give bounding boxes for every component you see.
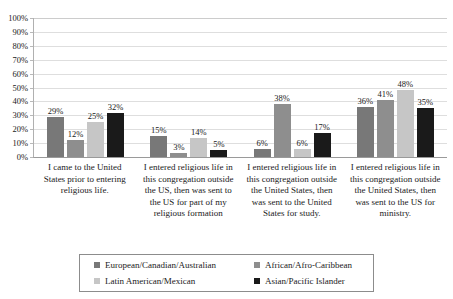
bar-slot: 3% (170, 18, 187, 157)
bar-slot: 15% (150, 18, 167, 157)
bar[interactable] (397, 90, 414, 157)
bar-slot: 48% (397, 18, 414, 157)
bar[interactable] (294, 149, 311, 157)
legend-label: African/Afro-Caribbean (265, 260, 352, 270)
legend-item[interactable]: European/Canadian/Australian (94, 260, 254, 270)
y-tick-label: 90% (12, 28, 28, 37)
y-tick-label: 20% (12, 125, 28, 134)
bar-slot: 32% (107, 18, 124, 157)
bar[interactable] (210, 150, 227, 157)
bar-value-label: 17% (314, 123, 330, 132)
bar-value-label: 48% (398, 80, 414, 89)
bar-slot: 29% (47, 18, 64, 157)
bar-group: 15%3%14%5% (137, 18, 240, 157)
plot-wrapper: 100%90%80%70%60%50%40%30%20%10%0% 29%12%… (0, 18, 453, 160)
category-axis-labels: I came to the United States prior to ent… (33, 162, 447, 248)
legend-swatch (94, 278, 100, 284)
bar-slot: 6% (294, 18, 311, 157)
bar-slot: 36% (357, 18, 374, 157)
bar-value-label: 41% (378, 90, 394, 99)
bar[interactable] (314, 133, 331, 157)
bar-chart: 100%90%80%70%60%50%40%30%20%10%0% 29%12%… (0, 0, 453, 299)
y-tick-label: 40% (12, 97, 28, 106)
category-label: I entered religious life in this congreg… (240, 162, 344, 248)
category-label: I entered religious life in this congreg… (344, 162, 448, 248)
y-tick-label: 30% (12, 111, 28, 120)
bar-value-label: 29% (48, 107, 64, 116)
bar-slot: 6% (254, 18, 271, 157)
bar-value-label: 35% (418, 98, 434, 107)
bar-value-label: 14% (191, 128, 207, 137)
bar-slot: 14% (190, 18, 207, 157)
bar[interactable] (67, 140, 84, 157)
bar-group: 36%41%48%35% (344, 18, 447, 157)
legend-label: Asian/Pacific Islander (265, 276, 345, 286)
legend-swatch (254, 278, 260, 284)
legend-item[interactable]: African/Afro-Caribbean (254, 260, 373, 270)
bar[interactable] (377, 100, 394, 157)
bar-slot: 12% (67, 18, 84, 157)
chart-title-cutoff (0, 0, 453, 11)
bar[interactable] (274, 104, 291, 157)
bar-slot: 38% (274, 18, 291, 157)
bar[interactable] (170, 153, 187, 157)
bar[interactable] (150, 136, 167, 157)
legend-item[interactable]: Latin American/Mexican (94, 276, 254, 286)
legend-swatch (254, 262, 260, 268)
legend-label: European/Canadian/Australian (105, 260, 216, 270)
legend-swatch (94, 262, 100, 268)
y-tick-label: 70% (12, 56, 28, 65)
category-label: I came to the United States prior to ent… (33, 162, 137, 248)
legend-item[interactable]: Asian/Pacific Islander (254, 276, 373, 286)
bar-group: 29%12%25%32% (34, 18, 137, 157)
bar-slot: 17% (314, 18, 331, 157)
bar-value-label: 6% (256, 139, 267, 148)
bar-value-label: 25% (88, 112, 104, 121)
bar-value-label: 12% (68, 130, 84, 139)
bar[interactable] (190, 138, 207, 157)
y-tick-label: 50% (12, 84, 28, 93)
bar[interactable] (107, 113, 124, 157)
y-tick-label: 60% (12, 70, 28, 79)
bar-groups: 29%12%25%32%15%3%14%5%6%38%6%17%36%41%48… (34, 18, 447, 157)
bar-slot: 35% (417, 18, 434, 157)
bar-value-label: 15% (151, 126, 167, 135)
bar-slot: 25% (87, 18, 104, 157)
bar-value-label: 5% (213, 140, 224, 149)
plot-area: 29%12%25%32%15%3%14%5%6%38%6%17%36%41%48… (33, 18, 447, 158)
bar-group: 6%38%6%17% (241, 18, 344, 157)
bar-value-label: 36% (358, 97, 374, 106)
bar[interactable] (357, 107, 374, 157)
y-tick-label: 80% (12, 42, 28, 51)
bar-slot: 5% (210, 18, 227, 157)
y-tick-label: 0% (17, 153, 28, 162)
bar[interactable] (47, 117, 64, 157)
bar-value-label: 38% (274, 94, 290, 103)
y-axis: 100%90%80%70%60%50%40%30%20%10%0% (0, 18, 30, 160)
bar-value-label: 3% (173, 143, 184, 152)
bar[interactable] (417, 108, 434, 157)
y-tick-label: 100% (8, 14, 28, 23)
chart-legend: European/Canadian/AustralianAfrican/Afro… (79, 254, 374, 292)
bar-slot: 41% (377, 18, 394, 157)
bar-value-label: 32% (108, 103, 124, 112)
category-label: I entered religious life in this congreg… (137, 162, 241, 248)
bar[interactable] (254, 149, 271, 157)
y-tick-label: 10% (12, 139, 28, 148)
bar-value-label: 6% (296, 139, 307, 148)
bar[interactable] (87, 122, 104, 157)
legend-label: Latin American/Mexican (105, 276, 195, 286)
